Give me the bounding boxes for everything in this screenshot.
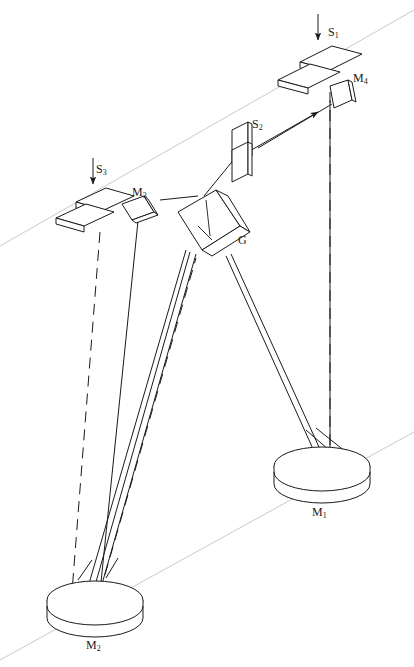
reference-plane-guides	[0, 10, 414, 660]
label-m4-sub: 4	[364, 77, 368, 86]
ray-grating-to-m1-b	[231, 254, 324, 458]
label-s1: S1	[328, 26, 339, 38]
label-m2: M2	[86, 639, 101, 651]
m1-body	[274, 466, 370, 503]
ray-grating-to-m3	[160, 196, 198, 200]
label-m3-sub: 3	[143, 191, 147, 200]
label-m2-sub: 2	[97, 644, 101, 653]
label-m4-text: M	[353, 71, 364, 85]
slit-s3	[56, 188, 134, 232]
label-m4: M4	[353, 72, 368, 84]
s2-plate-lower-side	[248, 142, 252, 176]
label-m1-text: M	[312, 505, 323, 519]
axis-s3-to-m2	[72, 232, 100, 592]
label-m1-sub: 1	[323, 511, 327, 520]
optical-diagram: S1 S2 S3 M1 M2 M3 M4 G	[0, 0, 414, 667]
label-s1-text: S	[328, 25, 335, 39]
label-s3-text: S	[96, 162, 103, 176]
ray-m4-to-s2	[258, 104, 332, 148]
optical-axis-dashed	[72, 92, 330, 592]
ray-grating-to-m2-a	[92, 252, 190, 596]
label-s3-sub: 3	[103, 168, 107, 177]
label-s1-sub: 1	[335, 31, 339, 40]
ray-bundle	[78, 14, 346, 598]
label-g: G	[238, 234, 247, 246]
ray-grating-to-m2-c	[86, 250, 186, 594]
mirror-m2	[47, 581, 143, 637]
ray-grating-to-m2-b	[98, 254, 196, 598]
label-m3-text: M	[132, 185, 143, 199]
ray-m2-return-b	[106, 558, 118, 578]
ray-m2-return-a	[78, 560, 92, 580]
mirror-m3	[122, 196, 158, 223]
label-m3: M3	[132, 186, 147, 198]
label-g-text: G	[238, 233, 247, 247]
label-s2: S2	[252, 118, 263, 130]
m2-body	[47, 600, 143, 637]
slit-s2	[232, 122, 252, 182]
ray-grating-to-m1-a	[226, 256, 318, 460]
label-m1: M1	[312, 506, 327, 518]
label-s2-text: S	[252, 117, 259, 131]
label-s3: S3	[96, 163, 107, 175]
ray-m3-to-m2-outer	[100, 221, 138, 592]
mirror-m1	[274, 447, 370, 503]
label-s2-sub: 2	[259, 123, 263, 132]
label-m2-text: M	[86, 638, 97, 652]
optics-canvas	[0, 0, 414, 667]
